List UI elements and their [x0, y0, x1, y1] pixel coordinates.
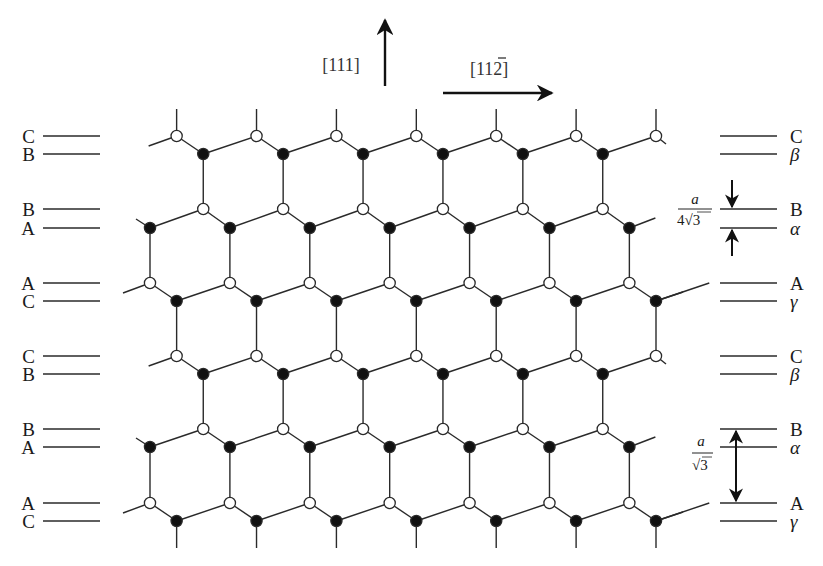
bond	[443, 136, 496, 154]
bar-digit: 2	[493, 59, 502, 79]
open-atom	[491, 130, 502, 141]
open-atom	[544, 277, 555, 288]
open-atom	[437, 423, 448, 434]
filled-atom	[624, 441, 635, 452]
bond	[470, 429, 523, 447]
layer-label: C	[22, 511, 35, 532]
bond	[470, 209, 523, 228]
bond	[496, 283, 549, 301]
open-atom	[278, 423, 289, 434]
open-atom	[571, 350, 582, 361]
large-gap-denominator: √3	[692, 457, 708, 473]
bond	[549, 429, 602, 447]
direction-11-2-label: [112]	[470, 59, 508, 79]
filled-atom	[597, 148, 608, 159]
layer-label: β	[789, 364, 800, 385]
bond	[150, 209, 203, 228]
open-atom	[517, 423, 528, 434]
left-layer-labels: CBBAACCBBAAC	[21, 126, 100, 532]
layer-label: B	[22, 364, 35, 385]
open-atom	[304, 277, 315, 288]
open-atom	[224, 497, 235, 508]
large-gap-numerator: a	[697, 433, 705, 449]
bond	[576, 503, 629, 521]
filled-atom	[464, 441, 475, 452]
bond	[257, 283, 310, 301]
filled-atom	[251, 515, 262, 526]
bond	[283, 136, 336, 154]
open-atom	[517, 203, 528, 214]
open-atom	[464, 497, 475, 508]
filled-atom	[278, 368, 289, 379]
filled-atom	[571, 295, 582, 306]
filled-atom	[198, 368, 209, 379]
filled-atom	[437, 368, 448, 379]
filled-atom	[278, 148, 289, 159]
bond	[443, 356, 496, 374]
open-atom	[357, 203, 368, 214]
filled-atom	[357, 148, 368, 159]
bond	[310, 429, 363, 447]
filled-atom	[650, 515, 661, 526]
direction-111: [111]	[322, 20, 385, 86]
layer-label: γ	[790, 291, 798, 312]
open-atom	[144, 497, 155, 508]
open-atom	[224, 277, 235, 288]
filled-atom	[384, 441, 395, 452]
bond	[363, 136, 416, 154]
filled-atom	[411, 295, 422, 306]
open-atom	[597, 203, 608, 214]
layer-label: A	[21, 218, 35, 239]
bond	[336, 283, 389, 301]
bond	[390, 429, 443, 447]
filled-atom	[304, 441, 315, 452]
filled-atom	[491, 295, 502, 306]
bond	[336, 503, 389, 521]
bond	[496, 503, 549, 521]
layer-label: B	[22, 199, 35, 220]
small-gap-annotation: a 4√3	[677, 180, 732, 256]
filled-atom	[544, 441, 555, 452]
open-atom	[491, 350, 502, 361]
filled-atom	[650, 295, 661, 306]
small-gap-numerator: a	[691, 191, 699, 207]
open-atom	[571, 130, 582, 141]
bond	[283, 356, 336, 374]
bond	[177, 503, 230, 521]
stacking-diagram: [111] [112] CBBAACCBBAAC CβBαAγCβBαAγ a …	[0, 0, 823, 566]
bond	[549, 209, 602, 228]
direction-111-label: [111]	[322, 55, 360, 75]
bond	[603, 136, 656, 154]
layer-label: α	[790, 218, 801, 239]
open-atom	[624, 497, 635, 508]
open-atom	[650, 130, 661, 141]
small-gap-denominator: 4√3	[677, 212, 700, 228]
filled-atom	[517, 368, 528, 379]
filled-atom	[304, 222, 315, 233]
open-atom	[544, 497, 555, 508]
filled-atom	[384, 222, 395, 233]
bond	[523, 356, 576, 374]
filled-atom	[171, 515, 182, 526]
open-atom	[624, 277, 635, 288]
open-atom	[304, 497, 315, 508]
filled-atom	[331, 295, 342, 306]
open-atom	[278, 203, 289, 214]
bond	[150, 429, 203, 447]
open-atom	[251, 130, 262, 141]
filled-atom	[224, 222, 235, 233]
layer-label: C	[22, 291, 35, 312]
open-atom	[411, 350, 422, 361]
layer-label: B	[790, 199, 803, 220]
filled-atom	[224, 441, 235, 452]
open-atom	[171, 350, 182, 361]
open-atom	[144, 277, 155, 288]
lattice-atoms	[144, 130, 661, 526]
open-atom	[331, 350, 342, 361]
bond	[230, 209, 283, 228]
bond	[603, 356, 656, 374]
filled-atom	[144, 441, 155, 452]
filled-atom	[571, 515, 582, 526]
filled-atom	[491, 515, 502, 526]
layer-label: α	[790, 437, 801, 458]
